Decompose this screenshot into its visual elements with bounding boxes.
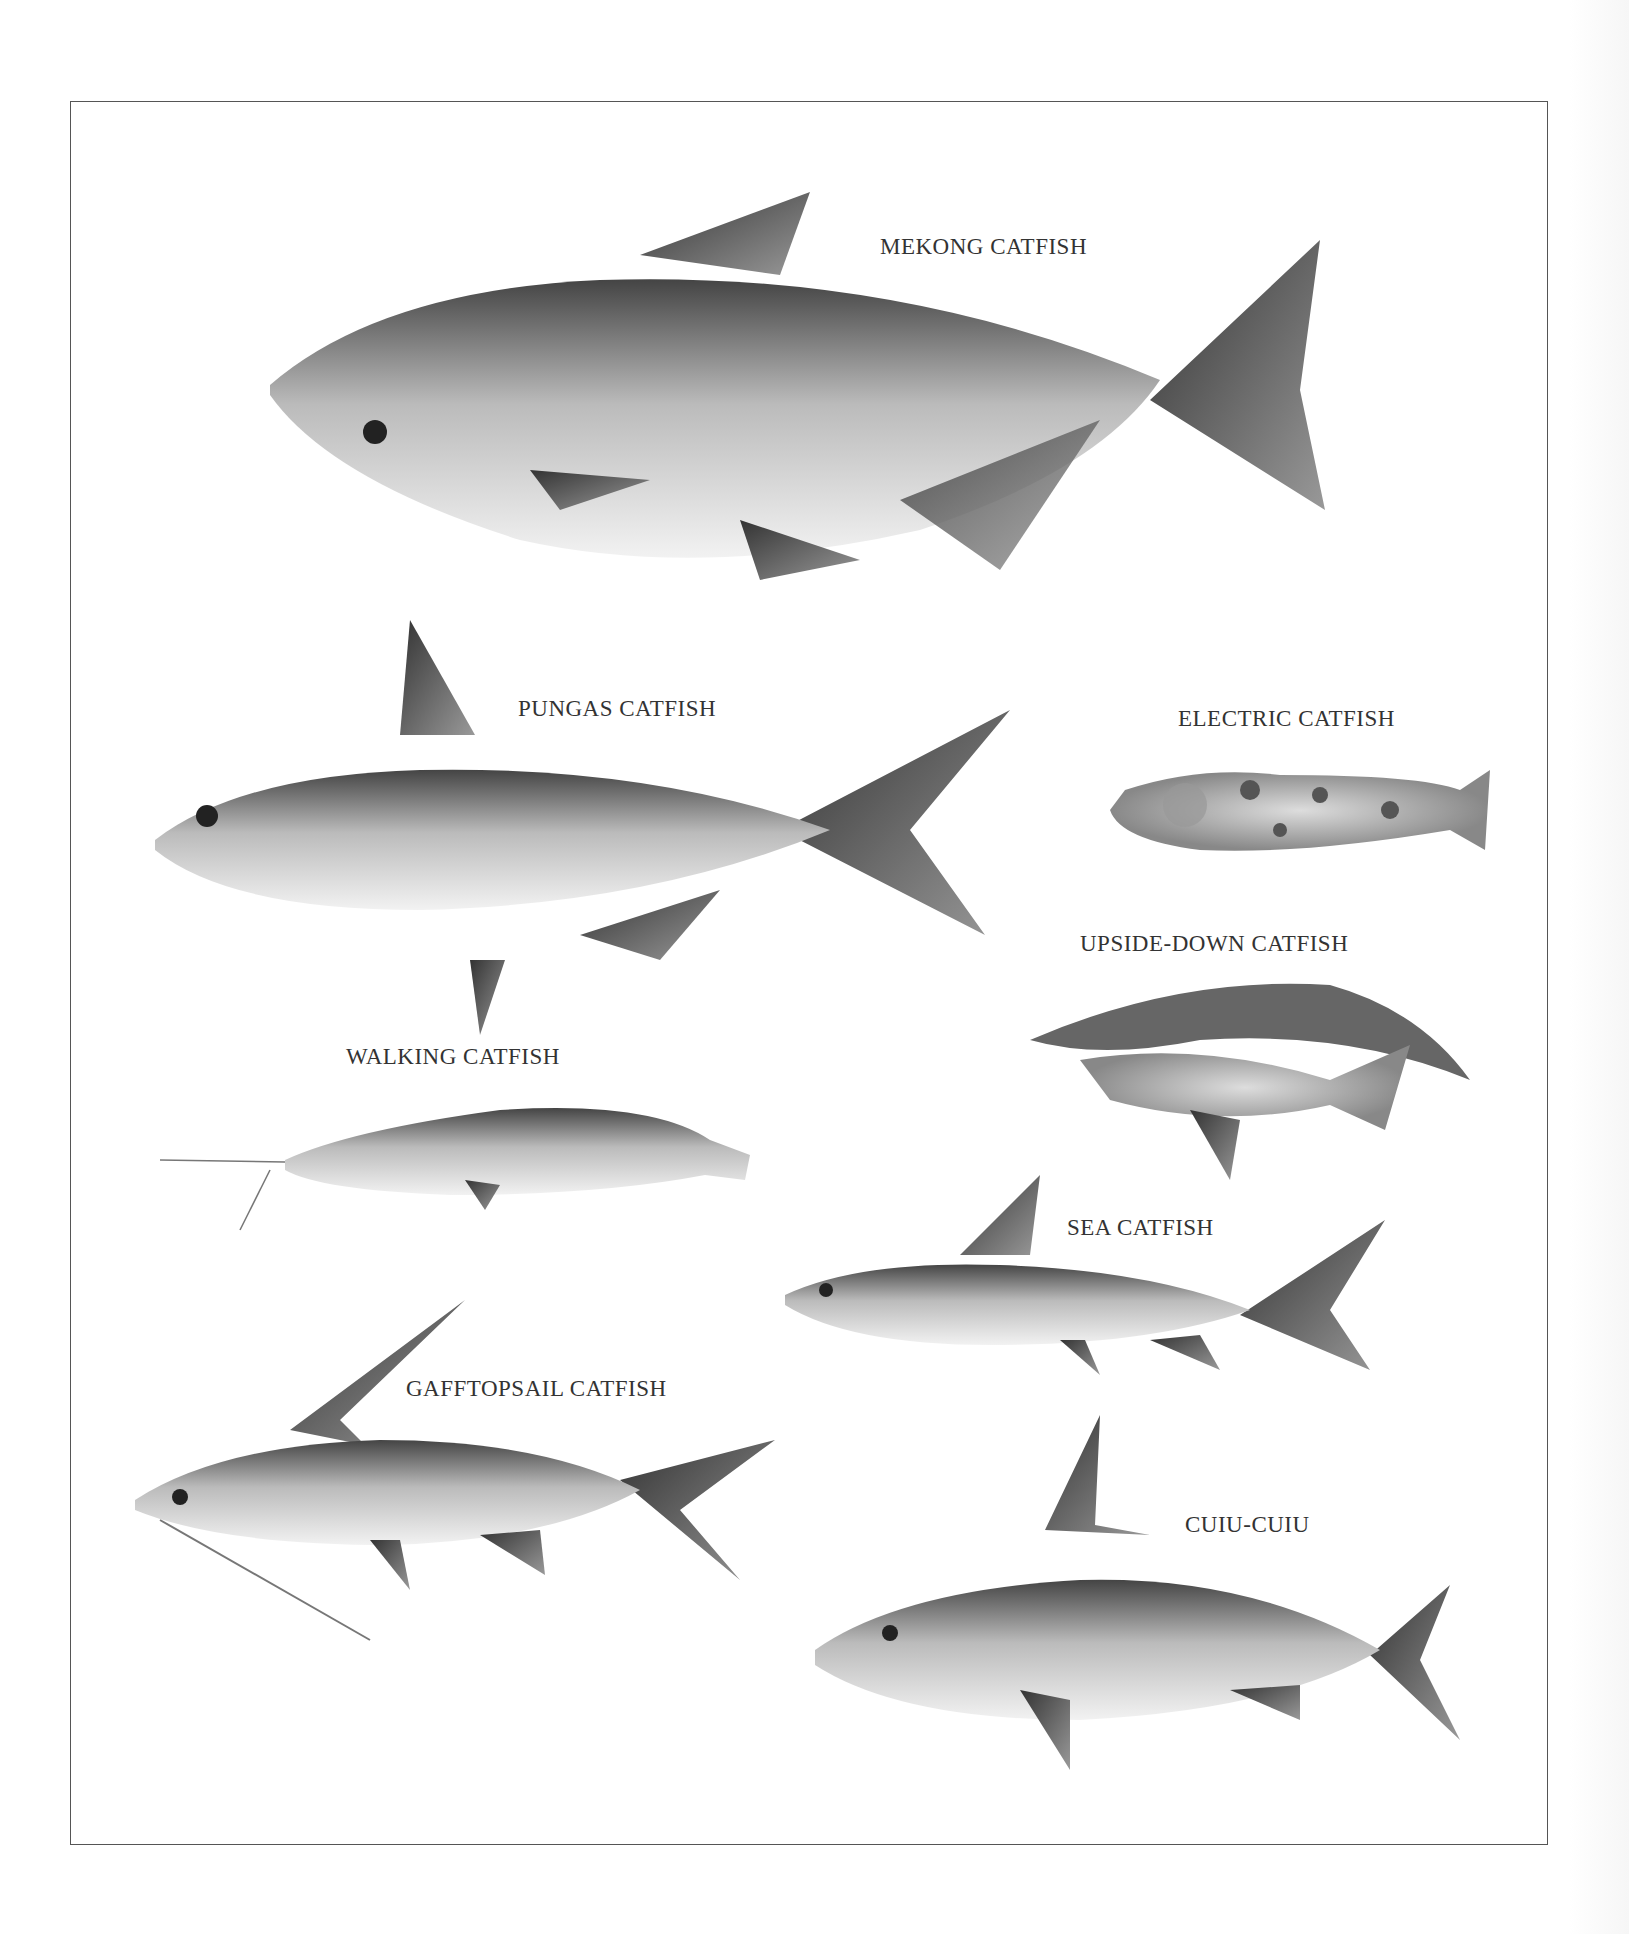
label-cuiu-cuiu: CUIU-CUIU [1185, 1512, 1310, 1538]
mekong-catfish-illustration [270, 192, 1325, 580]
label-pungas-catfish: PUNGAS CATFISH [518, 696, 716, 722]
label-mekong-catfish: MEKONG CATFISH [880, 234, 1087, 260]
label-upside-down-catfish: UPSIDE-DOWN CATFISH [1080, 931, 1348, 957]
label-sea-catfish: SEA CATFISH [1067, 1215, 1214, 1241]
cuiu-cuiu-illustration [815, 1415, 1460, 1770]
electric-catfish-illustration [1110, 770, 1490, 851]
fish-illustrations [0, 0, 1629, 1934]
label-gafftopsail-catfish: GAFFTOPSAIL CATFISH [406, 1376, 667, 1402]
pungas-catfish-illustration [155, 620, 1010, 1035]
label-walking-catfish: WALKING CATFISH [346, 1044, 560, 1070]
walking-catfish-illustration [160, 1108, 750, 1230]
label-electric-catfish: ELECTRIC CATFISH [1178, 706, 1395, 732]
sea-catfish-illustration [785, 1175, 1385, 1375]
upside-down-catfish-illustration [1030, 984, 1470, 1180]
gafftopsail-catfish-illustration [135, 1300, 775, 1640]
